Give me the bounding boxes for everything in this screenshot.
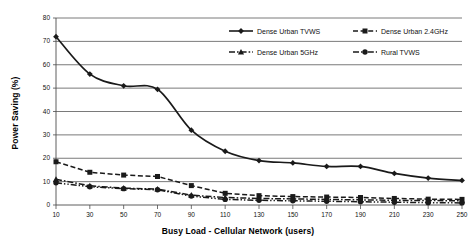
x-tick-label: 170 [315,211,339,218]
y-tick-label: 60 [28,61,50,68]
legend-entry[interactable]: Dense Urban 2.4GHz [352,26,448,36]
legend-entry[interactable]: Dense Urban TVWS [228,26,320,36]
data-point-marker [87,184,92,189]
y-axis-title: Power Saving (%) [10,53,20,173]
data-point-marker [459,200,464,205]
x-tick-label: 130 [247,211,271,218]
data-point-marker [87,170,92,175]
x-tick-label: 190 [349,211,373,218]
y-tick-label: 40 [28,108,50,115]
data-point-marker [53,180,58,185]
legend-label: Dense Urban TVWS [257,28,320,35]
x-tick-label: 210 [382,211,406,218]
data-point-marker [358,164,364,170]
data-point-marker [324,199,329,204]
data-point-marker [290,160,296,166]
data-point-marker [363,29,368,34]
plot-area [0,0,476,246]
data-point-marker [392,199,397,204]
data-point-marker [155,174,160,179]
data-point-marker [256,198,261,203]
legend-entry[interactable]: Dense Urban 5GHz [228,47,318,57]
data-point-marker [324,164,330,170]
legend-swatch-triangle-icon [228,47,254,57]
data-point-marker [358,199,363,204]
x-tick-label: 30 [78,211,102,218]
y-tick-label: 20 [28,154,50,161]
legend-swatch-circle-icon [352,47,378,57]
data-point-marker [222,197,227,202]
x-tick-label: 90 [179,211,203,218]
data-point-marker [54,159,59,164]
data-point-marker [155,187,160,192]
x-tick-label: 10 [44,211,68,218]
legend-swatch-diamond-icon [228,26,254,36]
y-tick-label: 70 [28,37,50,44]
chart-figure: Busy Load - Cellular Network (users) Pow… [0,0,476,246]
data-point-marker [391,171,397,177]
data-point-marker [362,49,367,54]
x-tick-label: 70 [146,211,170,218]
data-point-marker [425,175,431,181]
y-tick-label: 0 [28,201,50,208]
data-point-marker [121,186,126,191]
legend-label: Dense Urban 2.4GHz [381,28,448,35]
data-point-marker [425,200,430,205]
series-3 [53,180,464,206]
x-tick-label: 50 [112,211,136,218]
data-point-marker [121,173,126,178]
x-axis-title: Busy Load - Cellular Network (users) [0,226,476,236]
data-point-marker [238,28,244,34]
y-tick-label: 50 [28,84,50,91]
data-point-marker [222,148,228,154]
x-tick-label: 250 [450,211,474,218]
legend-label: Dense Urban 5GHz [257,49,318,56]
legend-swatch-square-icon [352,26,378,36]
legend-label: Rural TVWS [381,49,420,56]
y-tick-label: 80 [28,14,50,21]
x-tick-label: 230 [416,211,440,218]
legend-entry[interactable]: Rural TVWS [352,47,420,57]
data-point-marker [189,183,194,188]
data-point-marker [290,198,295,203]
data-point-marker [189,193,194,198]
x-tick-label: 150 [281,211,305,218]
data-point-marker [459,178,465,184]
x-tick-label: 110 [213,211,237,218]
y-tick-label: 10 [28,178,50,185]
y-tick-label: 30 [28,131,50,138]
